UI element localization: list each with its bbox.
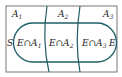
partition-diagram: A1 A2 A3 S E E∩A1 E∩A2 E∩A3 xyxy=(0,0,122,77)
sample-space-label: S xyxy=(7,38,13,48)
event-label: E xyxy=(108,38,116,48)
